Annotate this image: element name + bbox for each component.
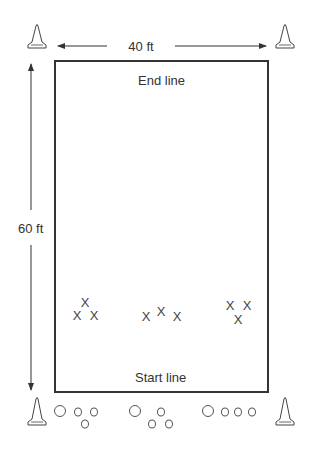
ball-icon — [90, 408, 98, 417]
ball-icon — [157, 408, 165, 417]
ball-icon — [165, 420, 173, 429]
length-label: 60 ft — [18, 221, 43, 236]
player-marker: X — [90, 309, 99, 322]
player-marker: X — [73, 309, 82, 322]
player-marker: X — [142, 310, 151, 323]
cone-icon — [28, 25, 46, 49]
ball-icon — [248, 408, 256, 417]
ball-icon — [74, 408, 82, 417]
cone-icon — [28, 398, 46, 426]
player-marker: X — [234, 313, 243, 326]
ball-icon — [234, 408, 242, 417]
ball-icon — [54, 405, 66, 417]
ball-icon — [81, 420, 89, 429]
player-marker: X — [226, 299, 235, 312]
field-rectangle — [54, 60, 269, 393]
player-marker: X — [173, 310, 182, 323]
player-marker: X — [243, 299, 252, 312]
end-line-label: End line — [138, 73, 185, 88]
cone-icon — [276, 398, 294, 426]
ball-icon — [221, 408, 229, 417]
player-marker: X — [157, 305, 166, 318]
cone-icon — [276, 25, 294, 49]
ball-icon — [202, 405, 214, 417]
player-marker: X — [81, 296, 90, 309]
ball-icon — [129, 405, 141, 417]
ball-icon — [148, 420, 156, 429]
width-label: 40 ft — [128, 39, 153, 54]
start-line-label: Start line — [135, 370, 186, 385]
